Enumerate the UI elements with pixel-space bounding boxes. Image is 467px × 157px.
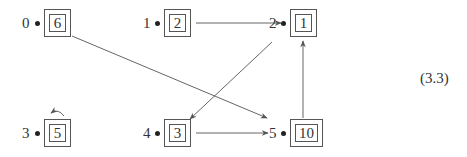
node-4-value: 3: [169, 124, 186, 142]
node-1-value: 2: [169, 14, 186, 32]
node-4-box: 3: [164, 119, 191, 147]
edge-2-to-4: [190, 42, 272, 119]
node-1-label: 1: [143, 16, 151, 31]
node-5-value: 10: [295, 124, 318, 142]
node-3-dot: [35, 131, 40, 136]
equation-label: (3.3): [420, 70, 449, 87]
self-loop-3: [51, 111, 64, 116]
graph-canvas: 0 6 1 2 2 1 3 5 4 3 5 10 (3.3): [0, 0, 467, 157]
node-2-label: 2: [269, 16, 277, 31]
edge-0-to-5: [72, 36, 267, 118]
node-3-value: 5: [49, 124, 66, 142]
node-5-dot: [281, 131, 286, 136]
node-3-box: 5: [44, 119, 71, 147]
node-1-dot: [155, 21, 160, 26]
node-0-dot: [35, 21, 40, 26]
node-2-box: 1: [290, 9, 317, 37]
node-0-box: 6: [44, 9, 71, 37]
node-2-dot: [281, 21, 286, 26]
node-1-box: 2: [164, 9, 191, 37]
node-4-dot: [155, 131, 160, 136]
node-3-label: 3: [22, 126, 30, 141]
node-0-value: 6: [49, 14, 66, 32]
node-2-value: 1: [295, 14, 312, 32]
node-5-box: 10: [290, 119, 323, 147]
node-5-label: 5: [269, 126, 277, 141]
node-4-label: 4: [143, 126, 151, 141]
node-0-label: 0: [22, 16, 30, 31]
